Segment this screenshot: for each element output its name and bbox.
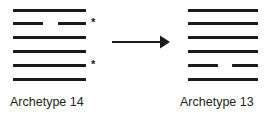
line-row-5-segment-1 xyxy=(188,64,218,67)
line-row-5 xyxy=(13,64,86,67)
archetype-right-line-group xyxy=(170,0,274,92)
asterisk-marker-row-5: * xyxy=(91,59,95,70)
line-row-3 xyxy=(188,36,258,39)
archetype-left-line-group: ** xyxy=(0,0,110,92)
caption-archetype-left: Archetype 14 xyxy=(10,95,84,109)
line-row-5-segment-2 xyxy=(232,64,258,67)
transformation-arrow-icon xyxy=(112,32,170,52)
line-row-4 xyxy=(13,50,86,53)
line-row-6 xyxy=(188,78,258,81)
line-row-2 xyxy=(188,22,258,25)
line-row-2-segment-1 xyxy=(13,22,43,25)
line-row-4 xyxy=(188,50,258,53)
line-row-1 xyxy=(188,9,258,12)
line-row-6 xyxy=(13,78,86,81)
line-row-2-segment-2 xyxy=(58,22,86,25)
asterisk-marker-row-2: * xyxy=(91,17,95,28)
line-row-1 xyxy=(13,9,86,12)
line-row-3 xyxy=(13,36,86,39)
caption-archetype-right: Archetype 13 xyxy=(180,95,254,109)
diagram-canvas: ** Archetype 14 Archetype 13 xyxy=(0,0,274,117)
